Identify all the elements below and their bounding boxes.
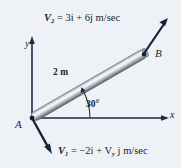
label-point-a: A [15,119,22,130]
label-bar-length: 2 m [53,68,68,78]
x-axis [32,115,169,121]
y-axis [29,36,35,118]
figure-vector-graphics [0,0,181,168]
v2-symbol: V [44,12,51,23]
v2-equation-body: = 3i + 6j m/sec [54,12,120,23]
label-point-b: B [155,48,162,59]
pivot-point-b [142,52,146,56]
physics-figure: V2 = 3i + 6j m/sec V1 = −2i + Vy j m/sec… [0,0,181,168]
velocity-v2-equation: V2 = 3i + 6j m/sec [44,13,120,25]
pivot-point-a [30,116,35,121]
v1-equation-body: = −2i + V [68,145,112,156]
velocity-v1-equation: V1 = −2i + Vy j m/sec [58,146,148,158]
velocity-vector-v1 [32,118,52,154]
label-axis-y: y [25,39,29,49]
label-angle-30: 30° [86,100,99,110]
v1-equation-tail: j m/sec [115,145,148,156]
v1-symbol: V [58,145,65,156]
label-axis-x: x [170,110,174,120]
